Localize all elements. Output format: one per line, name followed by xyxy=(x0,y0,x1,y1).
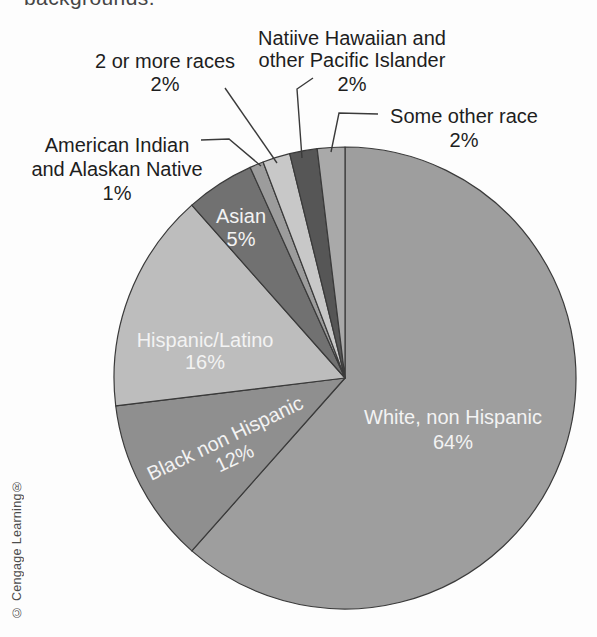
leader-line-2-or-more-races xyxy=(225,88,277,163)
callout-label-2-or-more-races-line-2: 2% xyxy=(151,73,180,95)
slice-label-asian-line-1: Asian xyxy=(216,205,266,227)
slice-label-white-non-hispanic-line-1: White, non Hispanic xyxy=(364,406,542,428)
slice-label-hispanic-latino-line-2: 16% xyxy=(185,351,225,373)
callout-label-american-indian-and-alaskan-native-line-3: 1% xyxy=(103,182,132,204)
callout-label-american-indian-and-alaskan-native-line-2: and Alaskan Native xyxy=(31,158,202,180)
clipped-body-text: backgrounds. xyxy=(24,0,155,10)
callout-label-american-indian-and-alaskan-native-line-1: American Indian xyxy=(45,134,190,156)
slice-label-hispanic-latino-line-1: Hispanic/Latino xyxy=(137,329,274,351)
scanned-textbook-figure: backgrounds. White, non Hispanic64%Black… xyxy=(0,0,597,637)
callout-label-some-other-race-line-1: Some other race xyxy=(390,105,538,127)
leader-line-american-indian-and-alaskan-native xyxy=(201,139,261,166)
callout-label-natiive-hawaiian-and-other-pacific-islander-line-3: 2% xyxy=(338,73,367,95)
callout-label-2-or-more-races-line-1: 2 or more races xyxy=(95,50,235,72)
slice-label-white-non-hispanic-line-2: 64% xyxy=(433,431,473,453)
callout-label-some-other-race-line-2: 2% xyxy=(450,129,479,151)
copyright-credit: © Cengage Learning® xyxy=(10,479,24,619)
pie-slices xyxy=(114,147,576,609)
callout-label-natiive-hawaiian-and-other-pacific-islander-line-1: Natiive Hawaiian and xyxy=(258,27,446,49)
leader-line-some-other-race xyxy=(331,113,378,152)
callout-label-natiive-hawaiian-and-other-pacific-islander-line-2: other Pacific Islander xyxy=(259,49,446,71)
slice-label-asian-line-2: 5% xyxy=(227,228,256,250)
pie-chart: White, non Hispanic64%Black non Hispanic… xyxy=(0,0,597,637)
leader-line-natiive-hawaiian-and-other-pacific-islander xyxy=(297,78,313,158)
